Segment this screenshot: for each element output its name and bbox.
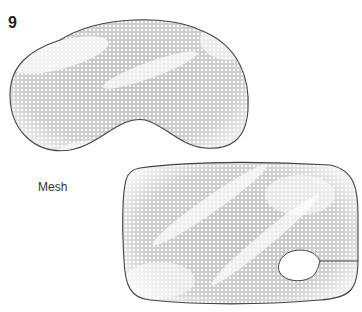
- figure-drawing: [0, 0, 362, 312]
- rectangular-pad-shape: [120, 155, 362, 312]
- eye-mask-shape: [0, 0, 260, 160]
